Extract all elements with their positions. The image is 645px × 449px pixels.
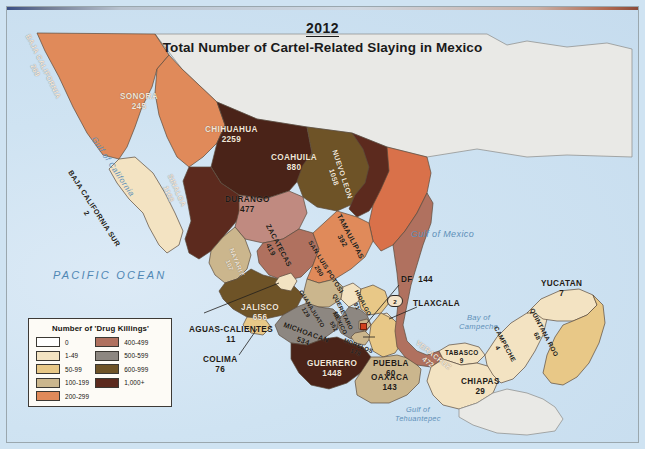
legend-swatch <box>95 378 119 388</box>
legend-item[interactable]: 100-199 <box>36 378 89 388</box>
legend-item[interactable]: 1-49 <box>36 351 89 361</box>
legend-item[interactable]: 200-299 <box>36 391 89 401</box>
state-guanajuato[interactable] <box>303 279 343 307</box>
legend-label: 0 <box>65 339 69 346</box>
legend-label: 50-99 <box>65 366 82 373</box>
legend-item[interactable]: 1,000+ <box>95 378 148 388</box>
state-baja-california-sur[interactable] <box>109 157 183 253</box>
legend-item[interactable]: 500-599 <box>95 351 148 361</box>
legend-item[interactable]: 50-99 <box>36 364 89 374</box>
map-frame: 2012 Total Number of Cartel-Related Slay… <box>6 6 639 443</box>
state-value: 2 <box>393 298 396 305</box>
legend-right-column: 400-499 500-599 600-999 1,000+ <box>95 337 148 401</box>
legend-swatch <box>36 337 60 347</box>
tlaxcala-value-callout: 2 <box>387 295 403 307</box>
legend-swatch <box>36 364 60 374</box>
legend-swatch <box>95 364 119 374</box>
legend-title: Number of 'Drug Killings' <box>36 324 165 333</box>
legend-label: 1,000+ <box>124 379 144 386</box>
legend-item[interactable]: 400-499 <box>95 337 148 347</box>
state-colima[interactable] <box>243 317 271 335</box>
legend-label: 500-599 <box>124 352 148 359</box>
legend-swatch <box>95 351 119 361</box>
legend-label: 100-199 <box>65 379 89 386</box>
legend-label: 400-499 <box>124 339 148 346</box>
title-block: 2012 Total Number of Cartel-Related Slay… <box>7 19 638 55</box>
map-screenshot: 2012 Total Number of Cartel-Related Slay… <box>0 0 645 449</box>
legend-label: 1-49 <box>65 352 78 359</box>
mexico-city-marker <box>360 323 367 330</box>
legend-label: 200-299 <box>65 393 89 400</box>
legend-swatch <box>95 337 119 347</box>
legend-left-column: 0 1-49 50-99 100-199 <box>36 337 89 401</box>
state-hidalgo[interactable] <box>359 285 389 315</box>
title-year: 2012 <box>306 20 339 37</box>
legend-swatch <box>36 351 60 361</box>
title-main: Total Number of Cartel-Related Slaying i… <box>7 40 638 55</box>
legend-item[interactable]: 0 <box>36 337 89 347</box>
legend-swatch <box>36 378 60 388</box>
legend-label: 600-999 <box>124 366 148 373</box>
state-campeche[interactable] <box>485 307 547 383</box>
legend-swatch <box>36 391 60 401</box>
legend-item[interactable]: 600-999 <box>95 364 148 374</box>
map-legend: Number of 'Drug Killings' 0 1-49 50-99 <box>28 318 172 407</box>
state-queretaro[interactable] <box>341 283 361 307</box>
